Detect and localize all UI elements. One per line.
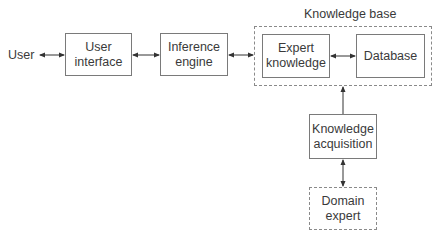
knowledge-base-title: Knowledge base xyxy=(304,7,396,21)
database-node: Database xyxy=(356,34,425,78)
inference-engine-node: Inference engine xyxy=(160,33,228,76)
knowledge-acquisition-node: Knowledge acquisition xyxy=(309,114,377,159)
database-label: Database xyxy=(364,49,418,64)
user-interface-line1: User xyxy=(75,40,123,55)
domain-expert-line1: Domain xyxy=(321,194,364,209)
knowledge-acquisition-line2: acquisition xyxy=(312,137,374,152)
knowledge-acquisition-line1: Knowledge xyxy=(312,122,374,137)
domain-expert-node: Domain expert xyxy=(309,187,377,230)
user-interface-line2: interface xyxy=(75,55,123,70)
inference-engine-line1: Inference xyxy=(168,40,220,55)
inference-engine-line2: engine xyxy=(168,55,220,70)
expert-knowledge-line1: Expert xyxy=(266,41,326,56)
domain-expert-line2: expert xyxy=(321,209,364,224)
expert-knowledge-node: Expert knowledge xyxy=(262,34,330,78)
user-node: User xyxy=(8,48,34,62)
user-interface-node: User interface xyxy=(65,33,132,76)
expert-knowledge-line2: knowledge xyxy=(266,56,326,71)
